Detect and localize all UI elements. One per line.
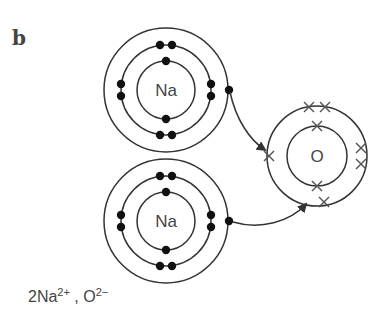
separator: ,: [70, 288, 83, 305]
panel-label: b: [12, 26, 26, 50]
ionic-bonding-diagram: b Na: [0, 0, 379, 321]
oxide-charge: 2−: [96, 286, 109, 298]
atom-symbol: Na: [155, 81, 177, 100]
atom-symbol: O: [310, 147, 323, 166]
sodium-ion-label: 2Na: [28, 288, 57, 305]
valence-electron: [225, 217, 233, 225]
transfer-arrow-bottom: [233, 204, 306, 225]
diagram-canvas: Na Na: [0, 0, 379, 321]
valence-electron: [225, 86, 233, 94]
transfer-arrow-top: [230, 92, 265, 150]
oxide-ion-label: O: [83, 288, 95, 305]
sodium-atom-bottom: Na: [104, 159, 233, 283]
ion-formula-caption: 2Na2+ , O2−: [28, 286, 108, 306]
oxygen-atom: O: [264, 102, 367, 207]
sodium-charge: 2+: [57, 286, 70, 298]
sodium-atom-top: Na: [104, 28, 233, 152]
atom-symbol: Na: [155, 212, 177, 231]
